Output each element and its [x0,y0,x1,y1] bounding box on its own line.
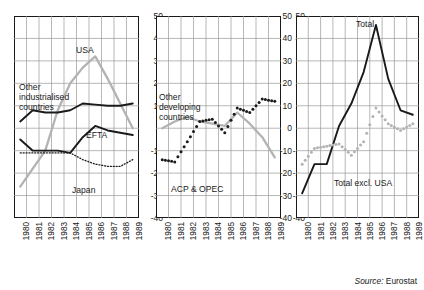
series-label-acp-opec: ACP & OPEC [171,184,223,194]
data-point-marker [248,111,251,114]
data-point-marker [408,124,411,127]
y-tick-label: -30 [280,191,292,200]
data-point-marker [211,118,214,121]
data-point-marker [242,109,245,112]
data-point-marker [405,126,408,129]
x-tick-label: 1987 [391,222,399,240]
data-point-marker [173,160,176,163]
x-tick-label: 1987 [253,222,261,240]
x-tick-label: 1989 [136,222,144,240]
x-tick-label: 1989 [416,222,424,240]
data-point-marker [264,98,267,101]
data-point-marker [186,140,189,143]
y-tick-label: 10 [283,102,292,111]
data-point-marker [356,147,359,150]
data-point-marker [396,127,399,130]
data-point-marker [201,119,204,122]
data-point-marker [344,148,347,151]
data-point-marker [399,129,402,132]
data-point-marker [310,151,313,154]
series-label-other-industrialised: Other industrialised countries [19,82,69,112]
data-point-marker [239,108,242,111]
data-point-marker [189,135,192,138]
data-point-marker [245,110,248,113]
y-tick-label: 50 [283,12,292,21]
series-label-total: Total [356,19,374,29]
data-point-marker [328,144,331,147]
source-prefix: Source: [355,276,384,286]
data-point-marker [381,114,384,117]
data-point-marker [170,160,173,163]
x-tick-label: 1981 [36,222,44,240]
x-tick-label: 1984 [215,222,223,240]
data-point-marker [208,118,211,121]
data-point-marker [371,115,374,118]
data-point-marker [362,140,365,143]
panel-2-x-axis: 1980198119821983198419851986198719881989 [156,222,281,266]
y-tick-label: 40 [283,34,292,43]
data-point-marker [261,98,264,101]
source-value: Eurostat [386,276,417,286]
x-tick-label: 1981 [178,222,186,240]
y-tick-label: 30 [283,57,292,66]
data-point-marker [374,107,377,110]
data-point-marker [365,132,368,135]
series-label-japan: Japan [72,185,95,195]
data-point-marker [313,147,316,150]
y-tick-label: -20 [280,169,292,178]
panel-1-x-axis: 1980198119821983198419851986198719881989 [14,222,139,266]
data-point-marker [236,107,239,110]
x-tick-label: 1984 [355,222,363,240]
x-tick-label: 1987 [111,222,119,240]
data-point-marker [353,150,356,153]
data-point-marker [334,143,337,146]
y-tick-label: 20 [283,79,292,88]
x-tick-label: 1986 [240,222,248,240]
panel-3-x-axis: 1980198119821983198419851986198719881989 [296,222,419,266]
x-tick-label: 1983 [61,222,69,240]
data-point-marker [341,145,344,148]
data-point-marker [255,104,258,107]
x-tick-label: 1986 [98,222,106,240]
data-point-marker [368,123,371,126]
series-label-other-developing: Other developing countries [159,92,201,122]
data-point-marker [390,124,393,127]
x-tick-label: 1981 [318,222,326,240]
series-label-total-excl-usa: Total excl. USA [334,178,392,188]
data-point-marker [347,151,350,154]
x-tick-label: 1989 [278,222,286,240]
data-point-marker [402,127,405,130]
x-tick-label: 1986 [379,222,387,240]
y-tick-label: -10 [280,146,292,155]
data-point-marker [223,131,226,134]
y-tick-label: 0 [287,124,292,133]
x-tick-label: 1982 [190,222,198,240]
data-point-marker [319,146,322,149]
data-point-marker [322,145,325,148]
x-tick-label: 1984 [73,222,81,240]
data-point-marker [176,155,179,158]
data-point-marker [180,150,183,153]
data-point-marker [393,126,396,129]
data-point-marker [331,144,334,147]
data-point-marker [220,128,223,131]
data-point-marker [350,154,353,157]
data-point-marker [325,145,328,148]
data-point-marker [233,113,236,116]
data-point-marker [411,122,414,125]
data-point-marker [161,158,164,161]
x-tick-label: 1982 [330,222,338,240]
data-point-marker [359,144,362,147]
data-point-marker [164,159,167,162]
data-point-marker [387,122,390,125]
data-point-marker [214,121,217,124]
x-tick-label: 1980 [23,222,31,240]
data-point-marker [301,163,304,166]
data-point-marker [226,125,229,128]
x-tick-label: 1985 [86,222,94,240]
series-label-efta: EFTA [86,130,107,140]
x-tick-label: 1983 [342,222,350,240]
data-point-marker [205,119,208,122]
data-point-marker [316,146,319,149]
